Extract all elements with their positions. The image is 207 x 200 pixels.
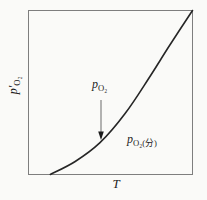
figure-oxygen-pressure-vs-temperature: p′O₂ pO₂ pO₂(分) T [0, 0, 207, 200]
plot-frame [29, 11, 193, 175]
curve-annotation-label-sub: O₂(分) [133, 138, 157, 148]
y-axis-label: p′O₂ [7, 62, 22, 108]
equilibrium-curve-line [50, 11, 192, 175]
y-axis-label-sub: O₂ [12, 76, 22, 85]
x-axis-label: T [104, 177, 128, 190]
curve-annotation-label: pO₂(分) [127, 133, 157, 148]
y-axis-label-base: p′ [6, 86, 20, 95]
arrow-annotation-label-sub: O₂ [98, 83, 107, 93]
x-axis-label-text: T [112, 176, 119, 191]
plot-canvas [0, 0, 207, 200]
arrow-annotation-label: pO₂ [92, 78, 107, 93]
